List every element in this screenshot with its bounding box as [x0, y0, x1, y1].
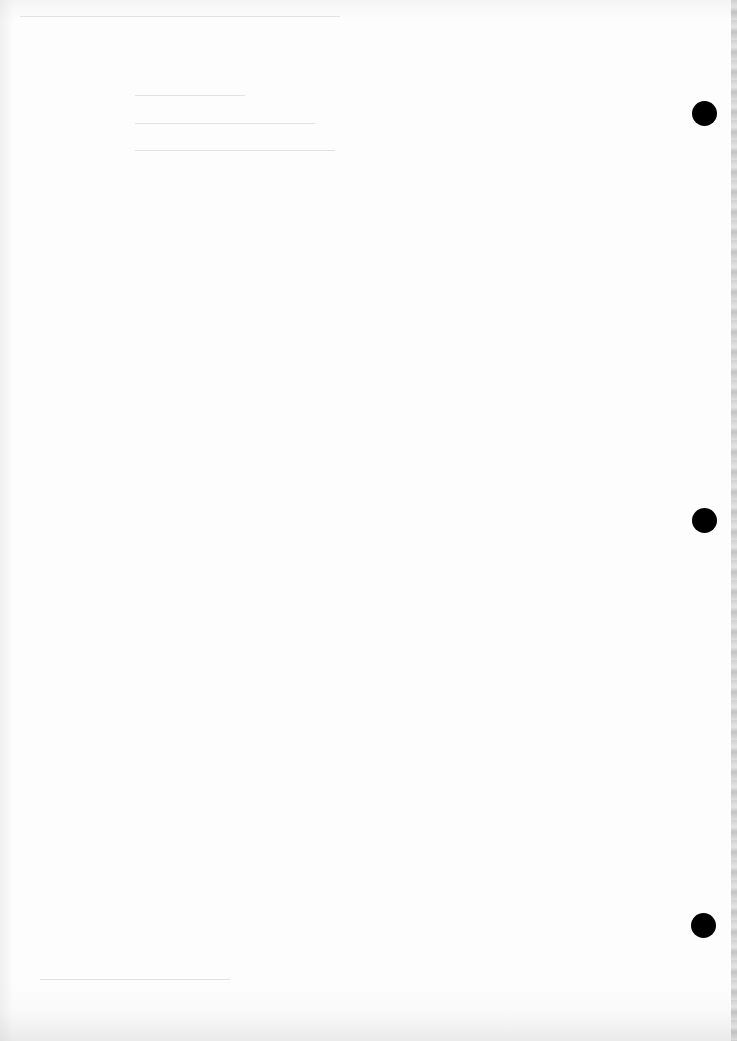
punch-hole-middle	[692, 508, 717, 533]
bleed-through-line	[135, 150, 335, 151]
bleed-through-line	[135, 95, 245, 96]
punch-hole-bottom	[691, 913, 716, 938]
scanned-page	[0, 0, 737, 1041]
bleed-through-line	[135, 123, 315, 124]
bleed-through-line	[20, 16, 340, 17]
bleed-through-line	[40, 979, 230, 980]
page-right-edge-shadow	[731, 0, 737, 1041]
punch-hole-top	[692, 101, 717, 126]
